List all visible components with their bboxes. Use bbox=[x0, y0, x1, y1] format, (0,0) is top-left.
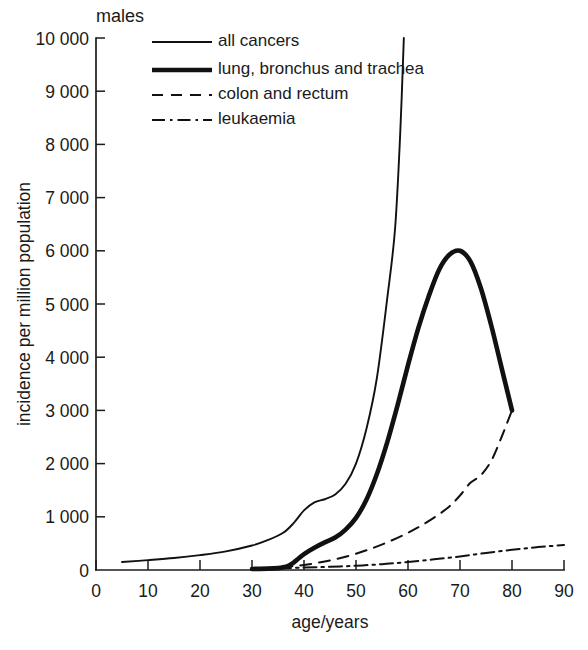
x-tick-label-90: 90 bbox=[554, 581, 574, 601]
x-tick-label-80: 80 bbox=[502, 581, 522, 601]
y-tick-label-4000: 4 000 bbox=[45, 348, 89, 368]
x-tick-label-20: 20 bbox=[190, 581, 210, 601]
y-tick-label-0: 0 bbox=[79, 561, 89, 581]
series-group bbox=[122, 38, 564, 569]
y-tick-label-9000: 9 000 bbox=[45, 82, 89, 102]
y-tick-label-7000: 7 000 bbox=[45, 188, 89, 208]
y-axis-title: incidence per million population bbox=[14, 182, 34, 426]
x-tick-label-70: 70 bbox=[450, 581, 470, 601]
y-tick-label-10000: 10 000 bbox=[35, 29, 89, 49]
y-tick-label-6000: 6 000 bbox=[45, 241, 89, 261]
series-lung-bronchus-trachea bbox=[252, 250, 512, 568]
cancer-incidence-figure: males 10 000 9 000 8 000 7 000 6 000 5 0… bbox=[0, 0, 588, 650]
y-axis-ticks: 10 000 9 000 8 000 7 000 6 000 5 000 4 0… bbox=[35, 29, 105, 581]
x-tick-label-30: 30 bbox=[242, 581, 262, 601]
y-tick-label-8000: 8 000 bbox=[45, 135, 89, 155]
legend-label-lung-bronchus-trachea: lung, bronchus and trachea bbox=[218, 59, 425, 78]
y-tick-label-3000: 3 000 bbox=[45, 401, 89, 421]
legend-label-colon-and-rectum: colon and rectum bbox=[218, 84, 348, 103]
series-colon-and-rectum bbox=[262, 410, 512, 568]
x-tick-label-10: 10 bbox=[138, 581, 158, 601]
x-tick-label-40: 40 bbox=[294, 581, 314, 601]
x-tick-label-50: 50 bbox=[346, 581, 366, 601]
legend-label-leukaemia: leukaemia bbox=[218, 109, 296, 128]
panel-title: males bbox=[96, 6, 144, 26]
x-axis-title: age/years bbox=[292, 612, 369, 632]
chart-canvas: males 10 000 9 000 8 000 7 000 6 000 5 0… bbox=[0, 0, 588, 650]
y-tick-label-5000: 5 000 bbox=[45, 295, 89, 315]
legend-label-all-cancers: all cancers bbox=[218, 31, 299, 50]
x-tick-label-60: 60 bbox=[398, 581, 418, 601]
chart-legend: all cancers lung, bronchus and trachea c… bbox=[152, 31, 425, 128]
y-tick-label-2000: 2 000 bbox=[45, 454, 89, 474]
series-leukaemia bbox=[278, 545, 564, 568]
x-tick-label-0: 0 bbox=[91, 581, 101, 601]
y-tick-label-1000: 1 000 bbox=[45, 507, 89, 527]
